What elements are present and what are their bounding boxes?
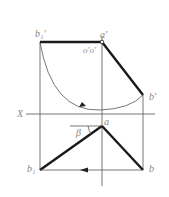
line-a-b <box>102 126 143 170</box>
label-x-axis: X <box>17 109 23 119</box>
arc-arrow-icon <box>79 102 86 107</box>
line-a-b1 <box>40 126 102 170</box>
label-b1-prime: b₁' <box>35 29 46 39</box>
label-a: a <box>104 117 109 127</box>
label-b1: b₁ <box>27 164 35 174</box>
label-b-prime: b' <box>149 92 156 102</box>
label-beta: β <box>76 128 81 138</box>
label-axis-point: o'o' <box>83 46 96 55</box>
point-aprime-circle <box>100 40 104 44</box>
beta-angle-arc <box>88 126 91 134</box>
rotation-diagram <box>0 0 169 197</box>
line-aprime-bprime <box>102 42 143 95</box>
label-a-prime: a' <box>100 30 107 40</box>
b-line-arrow-icon <box>80 168 88 173</box>
diagram-canvas: b₁' a' o'o' b' X a β b₁ b <box>0 0 169 197</box>
label-b: b <box>149 164 154 174</box>
